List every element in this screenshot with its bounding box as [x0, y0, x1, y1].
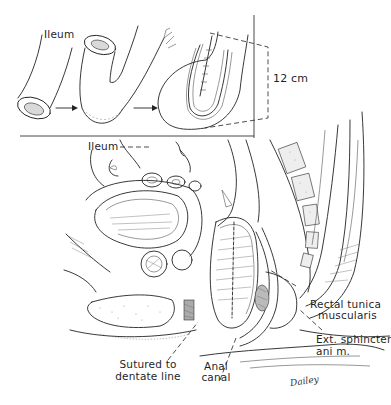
anal-canal-label-line2: canal	[196, 372, 236, 383]
bladder	[86, 180, 202, 277]
rectal-cuff	[240, 228, 297, 346]
rectal-tunica-label-line2: muscularis	[318, 310, 377, 321]
label-leaders	[120, 147, 322, 380]
sacrum	[270, 112, 364, 318]
inset-ileum-label: Ileum	[44, 29, 74, 40]
pubic-symphysis	[88, 295, 195, 328]
sutured-label-line2: dentate line	[112, 371, 184, 382]
j-pouch	[158, 32, 248, 129]
ileum-segment-straight	[15, 35, 72, 123]
arrow-step-2	[134, 105, 158, 111]
ileum-segment-folded	[80, 26, 176, 123]
sutured-label-line1: Sutured to	[116, 359, 180, 370]
ileal-pouch	[210, 140, 259, 328]
length-12cm-label: 12 cm	[273, 73, 308, 84]
main-ileum-label: Ileum	[88, 141, 118, 152]
ext-sphincter-label-line2: ani m.	[316, 346, 350, 357]
ext-sphincter-label-line1: Ext. sphincter	[316, 334, 391, 345]
arrow-step-1	[56, 105, 78, 111]
